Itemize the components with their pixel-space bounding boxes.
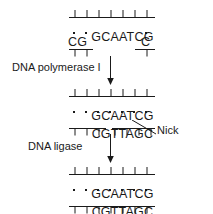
top-backbone-rail	[66, 88, 158, 97]
base-pair-dot	[73, 32, 75, 34]
bottom-strand-sequence: CGTTAGC	[66, 193, 158, 206]
top-strand-sequence: GCAATCG	[66, 18, 158, 31]
figure-canvas: GCAATCG CG C DNA polymerase I	[0, 0, 213, 214]
base-pair-dot	[85, 32, 87, 34]
base-pair-dot	[73, 111, 75, 113]
down-arrow-icon	[104, 56, 117, 86]
top-strand-sequence: GCAATCG	[66, 97, 158, 110]
top-backbone-rail	[66, 166, 158, 175]
bottom-strand-segment-left: CG	[68, 36, 87, 49]
duplex-sealed: GCAATCG CGTTAGC	[66, 166, 158, 214]
base-pair-dot	[145, 189, 147, 191]
top-backbone-rail	[66, 9, 158, 18]
base-pair-dot	[145, 32, 147, 34]
top-strand-sequence: GCAATCG	[66, 175, 158, 188]
base-pair-dot	[85, 189, 87, 191]
base-pair-dot	[85, 111, 87, 113]
base-pair-dot	[73, 189, 75, 191]
base-pair-dot	[121, 111, 123, 113]
base-pair-dot	[109, 111, 111, 113]
duplex-gapped: GCAATCG CG C	[66, 9, 158, 58]
bottom-strand-bases: CGTTAGC	[92, 206, 154, 214]
nick-leader-line	[132, 120, 160, 136]
base-pair-dot	[97, 111, 99, 113]
base-pair-dot	[97, 189, 99, 191]
base-pair-dot	[109, 189, 111, 191]
bottom-strand-segment-right: C	[141, 36, 150, 49]
reaction-label-dna-polymerase: DNA polymerase I	[12, 61, 101, 74]
base-pair-dot	[121, 189, 123, 191]
base-pair-dot	[145, 111, 147, 113]
down-arrow-icon	[104, 134, 117, 164]
reaction-label-dna-ligase: DNA ligase	[28, 140, 82, 153]
bottom-strand-segments: CG C	[66, 36, 158, 49]
base-pair-dot	[133, 189, 135, 191]
nick-annotation-label: Nick	[157, 124, 178, 137]
base-pair-dot	[133, 111, 135, 113]
